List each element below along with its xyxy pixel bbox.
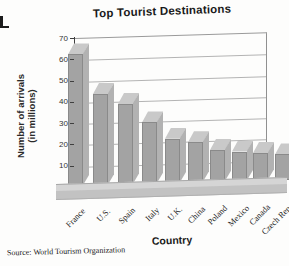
bar-front-face	[232, 152, 247, 181]
y-tick-mark	[70, 59, 74, 60]
bar-front-face	[188, 142, 203, 182]
y-tick-mark	[70, 38, 74, 39]
bar-front-face	[210, 150, 225, 182]
bar-side-face	[83, 43, 90, 186]
y-tick-label: 70	[46, 34, 68, 43]
y-tick-mark	[70, 166, 74, 167]
gridline	[75, 76, 266, 83]
bar-front-face	[142, 122, 157, 183]
y-axis-label: Number of arrivals (in millions)	[15, 57, 41, 175]
y-axis-label-line2: (in millions)	[26, 57, 37, 175]
bar-front-face	[275, 154, 289, 179]
bar-front-face	[165, 139, 180, 183]
y-tick-label: 60	[46, 55, 68, 64]
y-tick-mark	[70, 81, 74, 82]
bar-top-face	[275, 143, 289, 154]
scanned-bar-chart-figure: Top Tourist Destinations Number of arriv…	[0, 0, 289, 266]
y-tick-mark	[70, 102, 74, 103]
bar-front-face	[253, 153, 268, 180]
y-tick-mark	[70, 144, 74, 145]
bar-side-face	[133, 93, 140, 185]
bar-side-face	[157, 111, 164, 183]
bar-front-face	[118, 104, 133, 185]
y-tick-label: 40	[46, 97, 68, 106]
y-tick-label: 30	[46, 119, 68, 128]
y-tick-label: 20	[46, 140, 68, 149]
gridline	[75, 54, 266, 61]
chart-title: Top Tourist Destinations	[72, 2, 252, 20]
bar-front-face	[93, 94, 108, 185]
bar-side-face	[108, 83, 115, 185]
y-tick-label: 10	[46, 161, 68, 170]
y-axis-label-line1: Number of arrivals	[15, 57, 26, 175]
y-tick-label: 50	[46, 76, 68, 85]
scan-corner-artifact	[0, 26, 9, 29]
y-tick-mark	[70, 123, 74, 124]
